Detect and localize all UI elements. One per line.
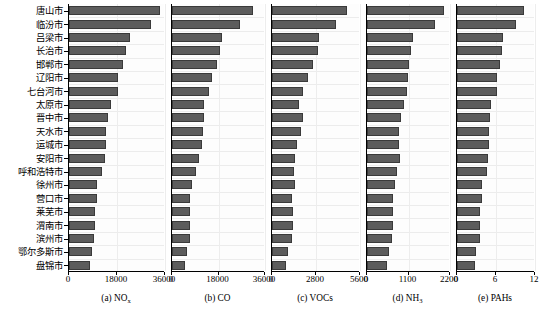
city-label-column: 唐山市临汾市吕梁市长治市邯郸市辽阳市七台河市太原市晋中市天水市运城市安阳市呼和浩… <box>0 0 68 320</box>
bar <box>272 221 293 230</box>
bar <box>172 247 187 256</box>
bar <box>69 60 123 69</box>
bar <box>272 180 295 189</box>
bar <box>272 113 303 122</box>
plot-area <box>171 4 264 272</box>
bar <box>172 207 190 216</box>
bar <box>457 140 489 149</box>
bar <box>367 207 393 216</box>
bar <box>172 46 220 55</box>
bar <box>367 154 400 163</box>
panel-b: 01800036000(b) CO <box>171 0 271 320</box>
panel-caption-subscript: 3 <box>419 297 422 304</box>
x-axis-tick-label: 2800 <box>306 274 324 284</box>
city-label: 七台河市 <box>27 85 63 98</box>
bar <box>457 60 500 69</box>
bar <box>69 154 105 163</box>
bar <box>367 100 404 109</box>
panel-caption: (a) NOx <box>68 293 164 303</box>
bar <box>172 261 185 270</box>
bar <box>457 20 516 29</box>
bar <box>172 6 253 15</box>
bar <box>172 113 204 122</box>
bar <box>457 154 488 163</box>
bar <box>367 73 408 82</box>
city-label: 临汾市 <box>36 18 63 31</box>
panel-a: 01800036000(a) NOx <box>68 0 171 320</box>
bar <box>272 6 347 15</box>
bar <box>272 194 292 203</box>
city-label: 长治市 <box>36 44 63 57</box>
bar <box>172 20 240 29</box>
x-axis-tick-label: 18000 <box>105 274 128 284</box>
bar <box>69 194 97 203</box>
bar <box>367 234 392 243</box>
bar <box>172 180 192 189</box>
city-label: 渭南市 <box>36 219 63 232</box>
bar <box>367 46 411 55</box>
bar <box>272 234 292 243</box>
bar <box>457 46 502 55</box>
city-label: 莱芜市 <box>36 205 63 218</box>
bar <box>69 261 90 270</box>
bar <box>69 100 111 109</box>
bar <box>69 87 118 96</box>
bar <box>69 234 94 243</box>
plot-area <box>68 4 164 272</box>
bar <box>272 20 336 29</box>
bar <box>367 33 413 42</box>
bar <box>272 140 297 149</box>
city-label: 徐州市 <box>36 178 63 191</box>
bar <box>457 207 480 216</box>
panel-caption: (e) PAHs <box>456 293 534 303</box>
city-label: 晋中市 <box>36 111 63 124</box>
bar <box>69 113 108 122</box>
bar <box>272 33 319 42</box>
city-label: 呼和浩特市 <box>18 165 63 178</box>
bar <box>272 261 286 270</box>
panel-e: 0612(e) PAHs <box>456 0 541 320</box>
gridline-vertical <box>409 4 410 271</box>
plot-area <box>271 4 359 272</box>
city-label: 太原市 <box>36 98 63 111</box>
bar <box>457 194 482 203</box>
bar <box>367 87 407 96</box>
x-axis-tick-label: 0 <box>66 274 71 284</box>
bar <box>172 234 190 243</box>
bar <box>272 247 288 256</box>
plot-area <box>456 4 534 272</box>
bar <box>272 87 303 96</box>
city-label: 营口市 <box>36 192 63 205</box>
bar <box>367 167 397 176</box>
bar <box>457 180 482 189</box>
bar <box>367 194 393 203</box>
panel-caption: (b) CO <box>171 293 264 303</box>
x-axis-tick-label: 0 <box>364 274 369 284</box>
bar <box>69 46 126 55</box>
bar <box>272 73 308 82</box>
bar <box>172 127 203 136</box>
bar <box>172 100 204 109</box>
bar <box>367 247 389 256</box>
bar <box>69 140 106 149</box>
bar <box>69 221 95 230</box>
bar <box>367 221 393 230</box>
gridline-vertical <box>360 4 361 271</box>
bar <box>367 127 399 136</box>
panel-caption-subscript: x <box>127 297 130 304</box>
city-label: 唐山市 <box>36 4 63 17</box>
bar <box>69 20 151 29</box>
bar <box>457 6 524 15</box>
bar <box>457 73 497 82</box>
city-label: 吕梁市 <box>36 31 63 44</box>
bar <box>172 167 196 176</box>
bar <box>457 234 480 243</box>
plot-area <box>366 4 449 272</box>
bar <box>367 20 435 29</box>
city-label: 辽阳市 <box>36 71 63 84</box>
bar <box>69 167 102 176</box>
bar <box>272 207 293 216</box>
bar <box>457 167 487 176</box>
bar <box>272 127 301 136</box>
